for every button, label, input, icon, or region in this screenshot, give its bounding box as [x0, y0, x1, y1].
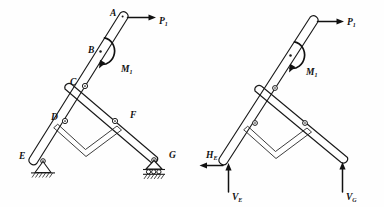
- diagram-svg: A B C D E F G P1 M1: [0, 0, 384, 207]
- left-diagram: A B C D E F G P1 M1: [18, 8, 176, 179]
- main-leg-member: [29, 12, 128, 165]
- label-M1-right: M1: [305, 67, 317, 78]
- figure-canvas: A B C D E F G P1 M1: [0, 0, 384, 207]
- right-diagram: P1 M1 HE VE VG: [200, 16, 358, 204]
- reaction-arrow-VE: [225, 163, 231, 192]
- pin-A: [122, 15, 124, 17]
- pin-B: [99, 50, 102, 53]
- main-leg-member-fbd: [219, 16, 318, 165]
- rear-leg-member-fbd: [255, 85, 348, 163]
- label-E: E: [18, 151, 25, 161]
- load-arrow-P1-left: [128, 14, 157, 20]
- spreader-bar-member-fbd: [244, 127, 312, 159]
- label-HE: HE: [205, 150, 217, 161]
- load-arrow-P1-right: [318, 18, 345, 24]
- label-G: G: [169, 150, 176, 160]
- label-P1-left: P1: [159, 16, 168, 27]
- label-D: D: [50, 112, 58, 122]
- support-E: [31, 162, 55, 178]
- label-M1-left: M1: [120, 64, 132, 75]
- support-G: [143, 161, 165, 179]
- pin-F-fbd-dot: [304, 122, 306, 124]
- reaction-arrow-VG: [339, 162, 345, 192]
- pin-D-fbd-dot: [254, 122, 256, 124]
- label-A: A: [109, 8, 116, 18]
- pin-C-dot: [84, 85, 86, 87]
- label-P1-right: P1: [347, 17, 356, 28]
- pin-C-fbd-dot: [274, 87, 276, 89]
- pin-D-dot: [64, 120, 66, 122]
- label-VE: VE: [232, 192, 242, 203]
- label-C: C: [70, 77, 77, 87]
- label-F: F: [129, 110, 137, 120]
- pin-B-fbd: [289, 54, 292, 57]
- label-B: B: [87, 45, 94, 55]
- pin-F-dot: [114, 120, 116, 122]
- label-VG: VG: [346, 192, 357, 203]
